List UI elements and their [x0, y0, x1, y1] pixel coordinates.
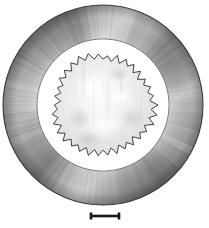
- specimen-rendering: [0, 0, 209, 209]
- micrograph-image: [0, 0, 209, 209]
- micrograph-figure: [0, 0, 209, 228]
- disc-shadow-blob: [107, 66, 129, 82]
- disc-highlight-blob: [108, 87, 134, 107]
- disc-shadow-blob: [67, 107, 91, 129]
- scale-bar: [0, 204, 209, 228]
- scale-bar-area: [0, 204, 209, 228]
